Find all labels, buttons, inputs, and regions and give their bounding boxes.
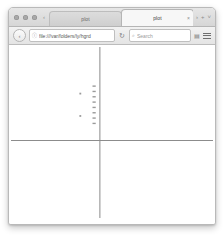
plot-axes — [11, 47, 213, 218]
browser-window: ‹ plot plot × › + ˅ ‹ — [8, 7, 216, 225]
search-icon: ⌕ — [132, 33, 135, 38]
close-window-button[interactable] — [14, 15, 19, 20]
plot-point — [92, 101, 95, 102]
tab-plot-2[interactable]: plot × — [121, 9, 193, 26]
zoom-window-button[interactable] — [32, 15, 37, 20]
scatter-plot — [9, 45, 215, 224]
window-controls — [9, 8, 41, 26]
scroll-tabs-right-icon[interactable]: › — [196, 14, 198, 20]
menu-icon[interactable] — [203, 33, 211, 39]
plot-point — [92, 91, 95, 92]
tab-strip: plot plot × — [49, 8, 193, 26]
plot-point — [92, 96, 95, 97]
plot-point — [92, 112, 95, 113]
close-tab-icon[interactable]: × — [187, 16, 190, 21]
chevron-left-icon: ‹ — [19, 33, 21, 39]
plot-svg — [9, 45, 215, 224]
plot-points — [79, 85, 95, 124]
plot-point — [92, 123, 95, 124]
tab-label: plot — [153, 15, 161, 21]
tab-scroll-controls: ‹ — [41, 8, 49, 26]
navigation-toolbar: ‹ ⓘ file:///var/folders/ly/hgrd ↻ ⌕ Sear… — [9, 27, 215, 45]
scroll-tabs-left-icon[interactable]: ‹ — [41, 14, 47, 20]
plot-point — [79, 115, 81, 117]
reload-icon[interactable]: ↻ — [118, 32, 126, 39]
plot-point — [92, 107, 95, 108]
search-bar[interactable]: ⌕ Search — [129, 29, 191, 42]
tab-bar-actions: › + ˅ — [193, 8, 215, 26]
tab-bar: ‹ plot plot × › + ˅ — [9, 8, 215, 27]
minimize-window-button[interactable] — [23, 15, 28, 20]
list-all-tabs-icon[interactable]: ˅ — [207, 14, 211, 20]
plot-point — [92, 117, 95, 118]
plot-point — [79, 93, 81, 95]
bookmark-icon[interactable]: ▤ — [194, 33, 200, 39]
url-text: file:///var/folders/ly/hgrd — [39, 33, 112, 39]
tab-plot-1[interactable]: plot — [49, 11, 122, 26]
url-bar[interactable]: ⓘ file:///var/folders/ly/hgrd — [29, 29, 115, 42]
search-placeholder-text: Search — [137, 33, 188, 39]
page-content — [9, 45, 215, 224]
back-button[interactable]: ‹ — [13, 29, 26, 42]
plot-point — [92, 85, 95, 86]
tab-label: plot — [81, 16, 89, 22]
site-info-icon[interactable]: ⓘ — [32, 33, 37, 38]
desktop-backdrop: ‹ plot plot × › + ˅ ‹ — [0, 0, 223, 237]
new-tab-icon[interactable]: + — [201, 14, 205, 20]
